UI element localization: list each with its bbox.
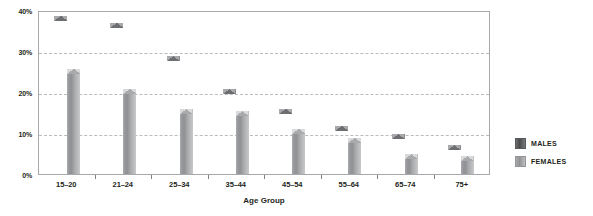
bar-cap [348, 138, 361, 143]
bar-cap [167, 56, 180, 61]
x-tick-label: 25–34 [151, 180, 208, 194]
x-tick-label: 21–24 [95, 180, 152, 194]
bar-body [335, 130, 348, 174]
y-axis: 0%10%20%30%40% [0, 0, 36, 216]
bar-body [292, 133, 305, 174]
bar-body [223, 93, 236, 174]
bar-females [292, 129, 305, 174]
bar-cap [448, 145, 461, 150]
bar-females [461, 156, 474, 174]
x-tick-label: 65–74 [377, 180, 434, 194]
x-tick-mark [377, 175, 378, 179]
legend-label: MALES [531, 140, 557, 147]
bar-females [67, 69, 80, 174]
bar-body [392, 138, 405, 174]
x-axis-title: Age Group [38, 196, 490, 205]
bar-cap [110, 23, 123, 28]
bar-body [67, 73, 80, 174]
plot-area [38, 11, 490, 175]
bar-group [95, 12, 151, 174]
bar-body [110, 27, 123, 174]
bar-cap [392, 134, 405, 139]
x-tick-mark [208, 175, 209, 179]
bar-cap [123, 89, 136, 94]
x-tick-mark [264, 175, 265, 179]
bar-males [54, 16, 67, 174]
legend-label: FEMALES [531, 158, 567, 165]
bar-group [152, 12, 208, 174]
legend-item: FEMALES [515, 156, 593, 167]
bar-chart: 0%10%20%30%40% 15–2021–2425–3435–4445–54… [0, 0, 593, 216]
y-tick-label: 0% [22, 172, 32, 179]
bar-males [110, 23, 123, 174]
legend: MALESFEMALES [515, 138, 593, 174]
bar-cap [335, 126, 348, 131]
bar-body [123, 93, 136, 174]
bar-body [279, 113, 292, 174]
y-tick-label: 20% [19, 90, 32, 97]
bar-males [392, 134, 405, 174]
x-tick-label: 45–54 [264, 180, 321, 194]
bar-group [208, 12, 264, 174]
bar-body [167, 60, 180, 174]
y-tick-label: 10% [19, 131, 32, 138]
bar-body [348, 142, 361, 174]
bar-body [180, 113, 193, 174]
bar-groups [39, 12, 489, 174]
bar-males [279, 109, 292, 174]
bar-cap [180, 109, 193, 114]
x-tick-mark [321, 175, 322, 179]
x-tick-label: 55–64 [321, 180, 378, 194]
y-tick-label: 30% [19, 49, 32, 56]
bar-body [54, 20, 67, 174]
y-tick-label: 40% [19, 8, 32, 15]
bar-males [448, 145, 461, 174]
x-tick-mark [434, 175, 435, 179]
x-tick-label: 15–20 [38, 180, 95, 194]
bar-group [39, 12, 95, 174]
bar-cap [223, 89, 236, 94]
bar-males [335, 126, 348, 174]
bar-females [180, 109, 193, 174]
bar-females [348, 138, 361, 174]
x-tick-mark [151, 175, 152, 179]
x-tick-mark [95, 175, 96, 179]
bar-body [448, 149, 461, 174]
bar-cap [54, 16, 67, 21]
legend-swatch-females [515, 156, 526, 167]
bar-cap [67, 69, 80, 74]
legend-swatch-males [515, 138, 526, 149]
bar-body [461, 160, 474, 174]
bar-cap [461, 156, 474, 161]
bar-group [320, 12, 376, 174]
bar-body [236, 115, 249, 174]
x-tick-label: 35–44 [208, 180, 265, 194]
bar-cap [236, 111, 249, 116]
bar-cap [279, 109, 292, 114]
legend-item: MALES [515, 138, 593, 149]
x-tick-label: 75+ [434, 180, 491, 194]
bar-group [433, 12, 489, 174]
bar-group [264, 12, 320, 174]
bar-cap [405, 154, 418, 159]
bar-group [377, 12, 433, 174]
bar-males [167, 56, 180, 174]
x-axis-labels: 15–2021–2425–3435–4445–5455–6465–7475+ [38, 180, 490, 194]
bar-males [223, 89, 236, 174]
bar-cap [292, 129, 305, 134]
bar-females [236, 111, 249, 174]
bar-females [405, 154, 418, 175]
bar-body [405, 158, 418, 175]
bar-females [123, 89, 136, 174]
